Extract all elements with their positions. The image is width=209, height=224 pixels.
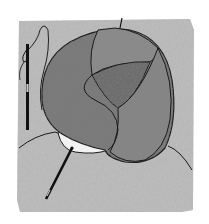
cushion-illustration xyxy=(0,0,209,224)
